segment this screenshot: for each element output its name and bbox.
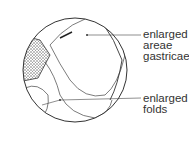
leader-line-folds-2 bbox=[42, 100, 60, 105]
leader-line-folds bbox=[60, 98, 141, 100]
label-enlarged-folds: enlarged folds bbox=[143, 93, 188, 115]
areae-outline bbox=[50, 15, 125, 96]
fold-outline bbox=[45, 62, 112, 118]
label-enlarged-areae-gastricae: enlarged areae gastricae bbox=[143, 29, 189, 62]
fold-outline-2 bbox=[25, 86, 48, 120]
stomach-mucosa-diagram bbox=[0, 0, 189, 143]
